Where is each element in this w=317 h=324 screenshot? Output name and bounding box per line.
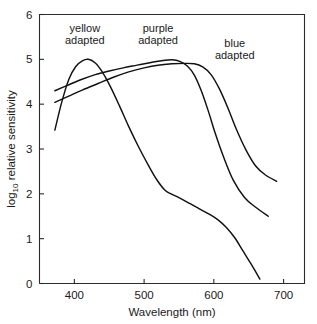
x-axis-title: Wavelength (nm) (128, 306, 215, 318)
series-annotations: yellowadaptedpurpleadaptedblueadapted (65, 22, 255, 61)
figure-container: 0123456400500600700 Wavelength (nm)log10… (0, 0, 317, 324)
y-tick-label-1: 1 (26, 233, 32, 245)
y-tick-label-4: 4 (26, 98, 33, 110)
x-tick-label-500: 500 (135, 289, 154, 301)
annotation-line2: adapted (215, 49, 255, 61)
annotation-purple: purpleadapted (138, 22, 178, 46)
plot-frame (40, 15, 305, 284)
plot-border (40, 15, 305, 284)
x-tick-label-600: 600 (204, 289, 223, 301)
annotation-line2: adapted (138, 34, 178, 46)
x-tick-label-700: 700 (274, 289, 293, 301)
y-tick-label-2: 2 (26, 188, 32, 200)
x-tick-label-400: 400 (65, 289, 84, 301)
curve-blue-adapted (55, 63, 277, 181)
annotation-line2: adapted (65, 34, 105, 46)
y-axis-title: log10 relative sensitivity (5, 90, 20, 208)
y-tick-label-5: 5 (26, 53, 32, 65)
y-axis-title-text: log10 relative sensitivity (5, 90, 20, 208)
annotation-blue: blueadapted (215, 37, 255, 61)
annotation-line1: purple (143, 22, 174, 34)
curve-series (55, 59, 277, 279)
y-tick-label-0: 0 (26, 278, 32, 290)
sensitivity-chart: 0123456400500600700 Wavelength (nm)log10… (0, 0, 317, 324)
annotation-line1: yellow (70, 22, 101, 34)
curve-purple-adapted (55, 60, 268, 216)
annotation-yellow: yellowadapted (65, 22, 105, 46)
annotation-line1: blue (224, 37, 245, 49)
y-tick-label-6: 6 (26, 9, 32, 21)
y-tick-label-3: 3 (26, 143, 32, 155)
